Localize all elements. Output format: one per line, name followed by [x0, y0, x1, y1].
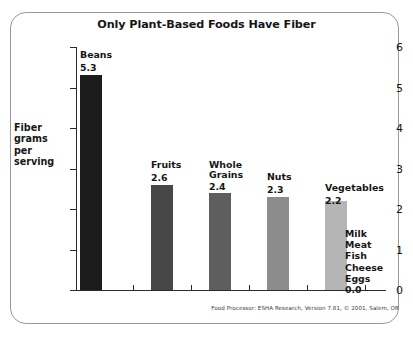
y-tick-mark-6 — [70, 47, 76, 48]
y-tick-label-2: 2 — [357, 203, 413, 216]
y-axis-line — [76, 47, 77, 291]
zero-fiber-food-milk: Milk — [345, 228, 383, 239]
bar-value-nuts: 2.3 — [267, 184, 284, 195]
x-tick-mark-4 — [307, 285, 308, 290]
bar-value-whole-grains: 2.4 — [209, 181, 226, 192]
zero-fiber-foods-list: Milk Meat Fish Cheese Eggs — [345, 228, 383, 284]
x-tick-mark-5 — [365, 285, 366, 290]
source-note: Food Processor: ESHA Research, Version 7… — [0, 305, 399, 311]
bar-label-vegetables: Vegetables — [325, 183, 384, 193]
zero-fiber-food-meat: Meat — [345, 239, 383, 250]
zero-fiber-food-cheese: Cheese — [345, 262, 383, 273]
y-tick-label-5: 5 — [357, 81, 413, 94]
zero-fiber-food-eggs: Eggs — [345, 273, 383, 284]
y-tick-label-3: 3 — [357, 162, 413, 175]
zero-fiber-value: 0.0 — [345, 284, 362, 295]
zero-fiber-food-fish: Fish — [345, 250, 383, 261]
bar-value-vegetables: 2.2 — [325, 195, 342, 206]
bar-nuts[interactable] — [267, 197, 289, 290]
bar-value-beans: 5.3 — [80, 62, 97, 73]
y-tick-mark-1 — [70, 250, 76, 251]
y-tick-label-6: 6 — [357, 41, 413, 54]
bar-whole-grains[interactable] — [209, 193, 231, 290]
bar-beans[interactable] — [80, 75, 102, 290]
y-tick-label-4: 4 — [357, 122, 413, 135]
bar-vegetables[interactable] — [325, 201, 347, 290]
y-tick-mark-5 — [70, 88, 76, 89]
x-tick-mark-2 — [191, 285, 192, 290]
plot-area: 0 1 2 3 4 5 6 Beans 5.3 Fruits 2.6 Whole… — [0, 0, 413, 339]
x-tick-mark-3 — [249, 285, 250, 290]
bar-label-whole-grains-line2: Grains — [209, 170, 243, 180]
bar-label-nuts: Nuts — [267, 172, 292, 182]
bar-value-fruits: 2.6 — [151, 172, 168, 183]
x-tick-mark-1 — [133, 285, 134, 290]
x-axis-line — [76, 290, 386, 291]
bar-fruits[interactable] — [151, 185, 173, 290]
y-tick-mark-4 — [70, 128, 76, 129]
y-tick-mark-3 — [70, 169, 76, 170]
bar-label-beans: Beans — [80, 50, 112, 60]
y-tick-mark-0 — [70, 290, 76, 291]
bar-label-fruits: Fruits — [151, 160, 181, 170]
y-tick-mark-2 — [70, 209, 76, 210]
